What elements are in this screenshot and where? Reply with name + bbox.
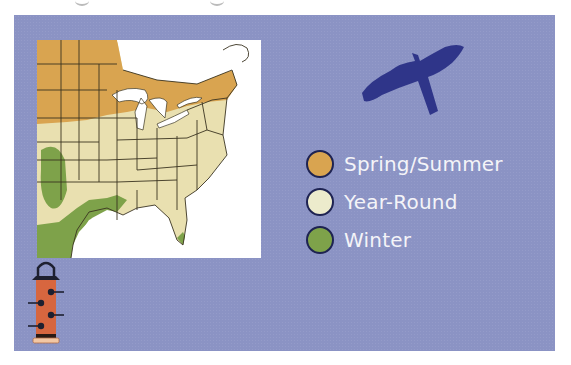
legend-label: Year-Round: [344, 190, 458, 214]
legend-label: Spring/Summer: [344, 152, 503, 176]
year-round-swatch: [306, 188, 334, 216]
spring-summer-swatch: [306, 150, 334, 178]
range-legend: Spring/Summer Year-Round Winter: [306, 145, 503, 259]
range-map-panel: Spring/Summer Year-Round Winter: [14, 15, 555, 351]
range-map-graphic: [37, 40, 261, 258]
legend-item-spring-summer: Spring/Summer: [306, 145, 503, 183]
legend-item-year-round: Year-Round: [306, 183, 503, 221]
legend-label: Winter: [344, 228, 411, 252]
region-winter-plains: [41, 147, 67, 209]
tube-feeder-icon: [24, 260, 68, 354]
cropped-title-fragment: [0, 0, 571, 6]
winter-swatch: [306, 226, 334, 254]
hawk-silhouette-icon: [360, 33, 470, 128]
legend-item-winter: Winter: [306, 221, 503, 259]
range-map: [37, 40, 261, 258]
